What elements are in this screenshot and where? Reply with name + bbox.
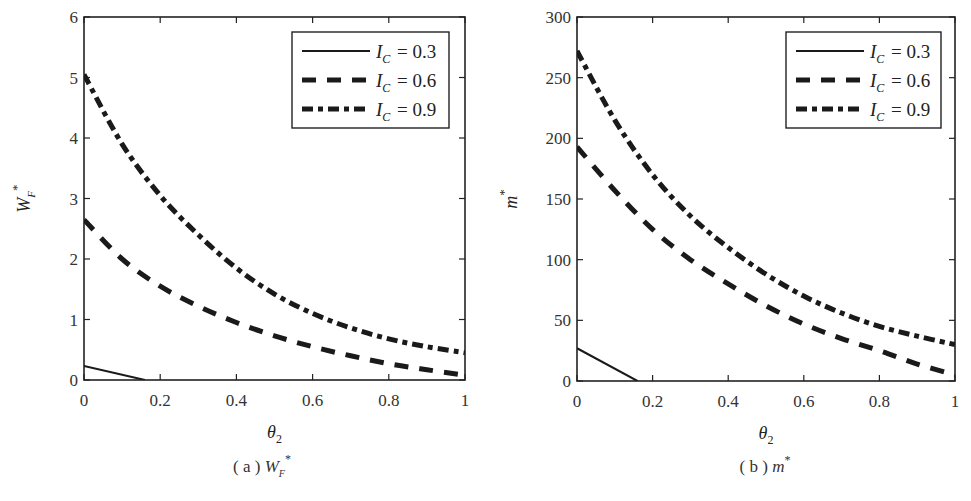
y-tick-label: 3 — [70, 190, 79, 209]
y-tick-label: 250 — [546, 69, 572, 88]
series-line-dashed — [84, 220, 465, 375]
figure: 00.20.40.60.810123456θ2WF*IC = 0.3IC = 0… — [0, 0, 971, 501]
x-tick-label: 0.6 — [302, 391, 323, 410]
y-tick-label: 100 — [546, 251, 572, 270]
y-tick-label: 0 — [70, 371, 79, 390]
y-tick-label: 4 — [70, 129, 79, 148]
y-tick-label: 0 — [563, 372, 572, 391]
y-tick-label: 5 — [70, 69, 79, 88]
panel-caption: ( a ) WF* — [233, 452, 291, 479]
legend: IC = 0.3IC = 0.6IC = 0.9 — [786, 32, 941, 128]
x-tick-label: 0 — [573, 392, 582, 411]
x-tick-label: 0.6 — [793, 392, 814, 411]
y-tick-label: 50 — [554, 311, 571, 330]
y-tick-label: 200 — [546, 129, 572, 148]
series-line-solid — [84, 366, 145, 380]
x-tick-label: 1 — [461, 391, 470, 410]
y-axis-label: WF* — [9, 184, 37, 212]
series-line-dashed — [577, 147, 955, 375]
x-tick-label: 0.8 — [869, 392, 890, 411]
x-axis-label: θ2 — [759, 423, 774, 447]
x-tick-label: 0.4 — [718, 392, 740, 411]
x-tick-label: 0.2 — [642, 392, 663, 411]
x-tick-label: 0.4 — [226, 391, 248, 410]
x-tick-label: 1 — [951, 392, 960, 411]
x-tick-label: 0.8 — [378, 391, 399, 410]
x-tick-label: 0.2 — [150, 391, 171, 410]
y-tick-label: 150 — [546, 190, 572, 209]
chart-panel-b: 00.20.40.60.81050100150200250300θ2m*IC =… — [496, 8, 959, 476]
series-line-solid — [577, 348, 637, 381]
y-axis-label: m* — [496, 189, 521, 209]
y-tick-label: 2 — [70, 250, 79, 269]
chart-panel-a: 00.20.40.60.810123456θ2WF*IC = 0.3IC = 0… — [9, 8, 469, 479]
legend: IC = 0.3IC = 0.6IC = 0.9 — [292, 32, 449, 128]
y-tick-label: 300 — [546, 8, 572, 27]
y-tick-label: 6 — [70, 8, 79, 27]
x-tick-label: 0 — [80, 391, 89, 410]
x-axis-label: θ2 — [267, 422, 282, 446]
y-tick-label: 1 — [70, 311, 79, 330]
panel-caption: ( b ) m* — [740, 453, 791, 476]
